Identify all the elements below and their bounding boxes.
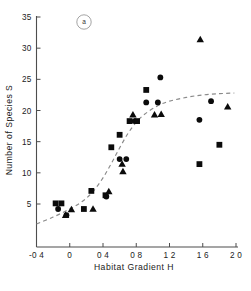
fitted-logistic-curve — [37, 93, 235, 224]
y-axis-title: Number of Species S — [4, 85, 14, 176]
data-point-circle — [123, 156, 129, 162]
panel-tag-group: a — [77, 15, 91, 29]
y-axis-ticks — [37, 17, 41, 204]
data-point-square — [197, 161, 203, 167]
y-tick-label: 25 — [22, 75, 32, 84]
data-point-triangle — [224, 103, 231, 109]
data-point-circle — [143, 100, 149, 106]
y-tick-label: 15 — [22, 138, 32, 147]
data-point-square — [134, 118, 140, 124]
data-point-triangle — [157, 110, 164, 116]
data-point-circle — [55, 206, 61, 212]
fitted-curve-group — [37, 93, 235, 224]
data-point-triangle — [129, 111, 136, 117]
data-point-square — [59, 200, 65, 206]
data-point-square — [143, 87, 149, 93]
x-tick-label: 0 4 — [97, 251, 109, 260]
data-point-square — [127, 118, 133, 124]
scatter-plot-figure: 5101520253035 -0 400 40 81 21 62 0 a Hab… — [0, 0, 251, 291]
x-tick-label: -0 4 — [29, 251, 44, 260]
data-point-triangle — [68, 206, 75, 212]
chart-canvas: 5101520253035 -0 400 40 81 21 62 0 a Hab… — [0, 0, 251, 291]
x-tick-label: 2 0 — [230, 251, 242, 260]
data-point-triangle — [151, 111, 158, 117]
data-point-square — [53, 200, 59, 206]
data-point-square — [81, 206, 87, 212]
data-point-circle — [208, 98, 214, 104]
y-tick-label: 20 — [22, 107, 32, 116]
data-point-square — [117, 132, 123, 138]
data-point-triangle — [89, 205, 96, 211]
data-points-group — [53, 36, 232, 218]
data-point-circle — [197, 117, 203, 123]
data-point-triangle — [197, 36, 204, 42]
x-axis-title: Habitat Gradient H — [94, 262, 174, 272]
panel-tag-label: a — [82, 18, 86, 25]
x-axis-ticks — [37, 243, 237, 247]
data-point-square — [108, 144, 114, 150]
x-tick-label: 1 6 — [197, 251, 209, 260]
x-tick-label: 1 2 — [164, 251, 176, 260]
data-point-triangle — [119, 168, 126, 174]
data-point-circle — [157, 75, 163, 81]
y-tick-label: 30 — [22, 44, 32, 53]
y-tick-label: 10 — [22, 169, 32, 178]
data-point-square — [216, 142, 222, 148]
y-tick-label: 35 — [22, 13, 32, 22]
x-tick-label: 0 — [67, 251, 72, 260]
x-axis-tick-labels: -0 400 40 81 21 62 0 — [29, 251, 242, 260]
data-point-circle — [155, 100, 161, 106]
y-axis-tick-labels: 5101520253035 — [22, 13, 32, 209]
data-point-triangle — [105, 188, 112, 194]
x-tick-label: 0 8 — [130, 251, 142, 260]
data-point-square — [88, 188, 94, 194]
y-tick-label: 5 — [27, 200, 32, 209]
